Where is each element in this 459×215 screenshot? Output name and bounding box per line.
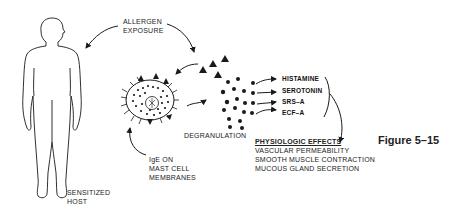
arrow-degranulation	[187, 100, 206, 106]
diagram-canvas	[0, 0, 459, 215]
physiologic-effects-title: PHYSIOLOGIC EFFECTS	[255, 137, 375, 146]
allergen-exposure-label: ALLERGEN EXPOSURE	[123, 17, 164, 35]
allergen-label-line2: EXPOSURE	[123, 26, 164, 35]
effect-item: SMOOTH MUSCLE CONTRACTION	[255, 155, 375, 164]
mediators-bracket	[324, 77, 329, 117]
released-granules-icon	[221, 77, 255, 130]
ige-label-line2: MAST CELL	[149, 164, 196, 173]
mediator-histamine: HISTAMINE	[282, 75, 319, 82]
mediator-srs-a: SRS–A	[282, 98, 305, 105]
ige-label: IgE ON MAST CELL MEMBRANES	[149, 155, 196, 182]
ige-label-line1: IgE ON	[149, 155, 196, 164]
effect-item: MUCOUS GLAND SECRETION	[255, 164, 375, 173]
human-figure-icon	[23, 18, 82, 198]
effect-item: VASCULAR PERMEABILITY	[255, 146, 375, 155]
degranulation-label: DEGRANULATION	[184, 131, 246, 140]
mast-cell-icon	[121, 73, 179, 125]
ige-label-line3: MEMBRANES	[149, 173, 196, 182]
arrow-to-allergen	[167, 24, 194, 52]
arrow-to-host	[86, 26, 118, 48]
mediator-arrows	[256, 79, 276, 114]
sensitized-host-label: SENSITIZED HOST	[67, 188, 110, 206]
allergen-triangles-icon	[199, 55, 229, 78]
host-label-line1: SENSITIZED	[67, 188, 110, 197]
physiologic-effects-block: PHYSIOLOGIC EFFECTS VASCULAR PERMEABILIT…	[255, 137, 375, 173]
allergen-label-line1: ALLERGEN	[123, 17, 164, 26]
arrow-allergen-to-cell	[176, 64, 198, 74]
mediator-serotonin: SEROTONIN	[282, 87, 322, 94]
figure-caption: Figure 5–15	[378, 134, 439, 146]
host-label-line2: HOST	[67, 197, 110, 206]
arrow-to-effects	[330, 94, 342, 142]
arrow-ige-label	[130, 128, 146, 155]
mediator-ecf-a: ECF–A	[282, 109, 304, 116]
